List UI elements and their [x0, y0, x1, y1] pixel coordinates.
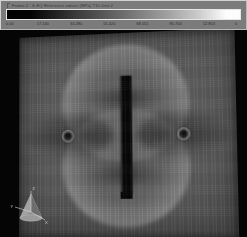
colorbar-tick-labels: 0.0017.14034.28051.42068.55185.70412.853…	[5, 20, 242, 28]
orientation-triad[interactable]: Z Y X	[9, 185, 53, 229]
legend-corner-marker	[7, 3, 10, 8]
fea-contour-viewport[interactable]: Z Y X	[0, 30, 247, 237]
colorbar-tick-0: 0.00	[6, 21, 14, 27]
colorbar-frame	[6, 9, 241, 20]
colorbar-tick-1: 17.140	[37, 21, 49, 27]
right-hole-core	[181, 130, 186, 135]
crack-lower-tip	[120, 191, 132, 198]
right-hole	[177, 126, 190, 139]
legend-title: Frame 2 : S-EQ Reference values (MPa) T1…	[12, 3, 113, 8]
colorbar-tick-5: 85.704	[170, 21, 182, 27]
triad-label-z: Z	[33, 186, 36, 191]
grayscale-colorbar[interactable]	[7, 10, 240, 19]
fea-post-processor-window: Frame 2 : S-EQ Reference values (MPa) T1…	[0, 0, 247, 237]
colorbar-tick-2: 34.280	[70, 21, 82, 27]
triad-label-x: X	[45, 220, 48, 225]
contour-legend-panel: Frame 2 : S-EQ Reference values (MPa) T1…	[0, 0, 247, 30]
colorbar-tick-3: 51.420	[103, 21, 115, 27]
left-hole-core	[66, 133, 70, 138]
colorbar-tick-6: 12.853	[203, 21, 215, 27]
left-hole	[62, 129, 75, 142]
triad-label-y: Y	[11, 204, 14, 209]
legend-title-row: Frame 2 : S-EQ Reference values (MPa) T1…	[5, 2, 242, 9]
colorbar-tick-7: 0	[235, 21, 237, 27]
colorbar-tick-4: 68.551	[136, 21, 148, 27]
center-crack	[120, 75, 132, 193]
